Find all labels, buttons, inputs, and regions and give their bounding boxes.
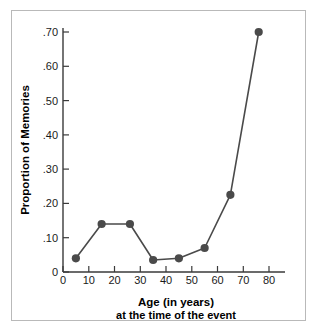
data-point xyxy=(72,254,80,262)
x-tick-label-80: 80 xyxy=(263,274,275,286)
data-point xyxy=(126,220,134,228)
y-axis-tick-labels: 0 .10 .20 .30 .40 .50 .60 .70 xyxy=(43,26,58,278)
y-axis-ticks xyxy=(63,32,69,272)
x-tick-label-40: 40 xyxy=(160,274,172,286)
series-markers xyxy=(72,28,263,264)
y-tick-label-40: .40 xyxy=(43,129,58,141)
data-point xyxy=(175,254,183,262)
y-tick-label-20: .20 xyxy=(43,197,58,209)
axes xyxy=(63,28,285,272)
x-tick-label-0: 0 xyxy=(60,274,66,286)
y-tick-label-0: 0 xyxy=(52,266,58,278)
data-point xyxy=(201,244,209,252)
data-point xyxy=(255,28,263,36)
y-axis-title: Proportion of Memories xyxy=(19,85,31,215)
x-tick-label-60: 60 xyxy=(211,274,223,286)
figure-container: 0 .10 .20 .30 .40 .50 .60 .70 0 10 20 3 xyxy=(0,0,318,331)
x-axis-title-line2: at the time of the event xyxy=(116,309,236,321)
x-tick-label-70: 70 xyxy=(237,274,249,286)
y-tick-label-30: .30 xyxy=(43,163,58,175)
x-tick-label-30: 30 xyxy=(134,274,146,286)
x-axis-title: Age (in years) xyxy=(138,296,214,308)
y-tick-label-70: .70 xyxy=(43,26,58,38)
x-tick-label-10: 10 xyxy=(83,274,95,286)
y-tick-label-50: .50 xyxy=(43,95,58,107)
data-point xyxy=(226,191,234,199)
data-series xyxy=(72,28,263,264)
x-tick-label-20: 20 xyxy=(108,274,120,286)
y-tick-label-10: .10 xyxy=(43,232,58,244)
x-axis-ticks xyxy=(63,266,269,272)
data-point xyxy=(98,220,106,228)
y-tick-label-60: .60 xyxy=(43,60,58,72)
x-axis-tick-labels: 0 10 20 30 40 50 60 70 80 xyxy=(60,274,275,286)
line-chart: 0 .10 .20 .30 .40 .50 .60 .70 0 10 20 3 xyxy=(0,0,318,331)
x-tick-label-50: 50 xyxy=(186,274,198,286)
data-point xyxy=(149,256,157,264)
